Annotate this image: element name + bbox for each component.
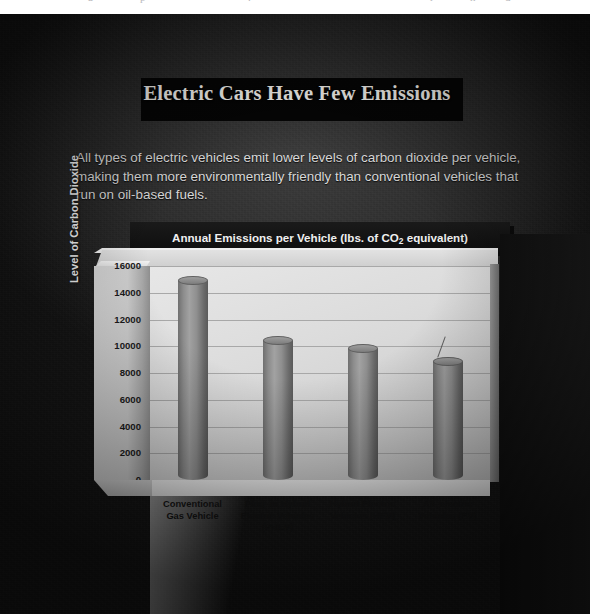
- bar-cylinder-body: [263, 341, 293, 480]
- y-axis-tick-label: 4000: [93, 421, 141, 432]
- chart-title-suffix: equivalent): [404, 231, 468, 244]
- bar-slot: [150, 266, 235, 480]
- x-axis-category-label: ConventionalGas Vehicle: [150, 497, 235, 539]
- x-axis-category-line: Conventional: [150, 499, 235, 511]
- headline-block: Electric Cars Have Few Emissions: [136, 72, 460, 118]
- bar-cylinder[interactable]: [178, 281, 208, 480]
- x-axis-category-line: All–electric: [405, 499, 490, 511]
- x-axis-category-label: All–electricVehicles (EV): [405, 497, 490, 539]
- x-axis-category-line: Vehicles (HEV): [320, 511, 405, 523]
- y-axis-tick-label: 8000: [93, 367, 141, 378]
- poster-page: Electric Cars Have Few Emissions All typ…: [0, 14, 590, 614]
- bar-cylinder[interactable]: [348, 349, 378, 480]
- x-axis-category-label: Plug–in HybridElectric Vehicles(PHEV): [235, 497, 320, 539]
- x-axis-category-line: Electric Vehicles: [235, 511, 320, 523]
- intro-paragraph-block: All types of electric vehicles emit lowe…: [76, 149, 524, 205]
- x-axis-category-line: (PHEV): [235, 522, 320, 534]
- bar-cylinder[interactable]: [433, 362, 463, 480]
- chart-pedestal-left-face: [98, 510, 154, 614]
- y-axis-tick-label: 2000: [93, 447, 141, 458]
- bar-cylinder-body: [348, 349, 378, 480]
- plot-right-edge: [490, 264, 499, 482]
- x-axis-category-line: Plug–in Hybrid: [235, 499, 320, 511]
- bar-cylinder-top: [178, 276, 208, 285]
- y-axis-tick-label: 14000: [93, 287, 141, 298]
- chart-title-subscript: 2: [399, 236, 404, 246]
- plot-area: [150, 266, 490, 480]
- x-axis-category-line: Vehicles (EV): [405, 511, 490, 523]
- bar-slot: [235, 266, 320, 480]
- bar-slot: [320, 266, 405, 480]
- top-cut-off-text-sliver: ap.rnd: [0, 0, 590, 14]
- top-text-fragment: .: [248, 0, 251, 3]
- x-axis-category-line: Gas Vehicle: [150, 511, 235, 523]
- top-text-fragment: n: [470, 0, 476, 3]
- y-axis-tick-label: 16000: [93, 260, 141, 271]
- headline-box: Electric Cars Have Few Emissions: [136, 72, 458, 115]
- y-axis-pillar: 1600014000120001000080006000400020000: [94, 266, 150, 480]
- plot-floor: [150, 480, 490, 496]
- emissions-bar-chart: Annual Emissions per Vehicle (lbs. of CO…: [72, 220, 522, 614]
- top-text-fragment: a: [88, 0, 93, 3]
- chart-title-banner: Annual Emissions per Vehicle (lbs. of CO…: [130, 222, 510, 252]
- y-axis-tick-label: 10000: [93, 340, 141, 351]
- x-axis-category-labels: ConventionalGas VehiclePlug–in HybridEle…: [150, 497, 490, 539]
- top-text-fragment: d: [505, 0, 511, 3]
- bar-cylinder-top: [263, 336, 293, 345]
- top-text-fragment: r: [430, 0, 434, 3]
- y-axis-tick-label: 12000: [93, 314, 141, 325]
- chart-title: Annual Emissions per Vehicle (lbs. of CO…: [172, 231, 468, 244]
- page-title: Electric Cars Have Few Emissions: [143, 82, 450, 105]
- x-axis-category-label: Hybrid ElectricVehicles (HEV): [320, 497, 405, 539]
- bar-cylinder-body: [178, 281, 208, 480]
- right-dark-flank: [500, 234, 590, 614]
- bar-cylinder[interactable]: [263, 341, 293, 480]
- y-axis-title: Level of Carbon Dioxide: [68, 144, 80, 294]
- chart-title-prefix: Annual Emissions per Vehicle (lbs. of CO: [172, 231, 399, 244]
- top-text-fragment: p: [140, 0, 146, 3]
- bar-cylinder-top: [348, 344, 378, 353]
- bar-cylinder-body: [433, 362, 463, 480]
- y-axis-tick-label: 6000: [93, 394, 141, 405]
- x-axis-category-line: Hybrid Electric: [320, 499, 405, 511]
- bar-cylinder-top: [433, 357, 463, 366]
- intro-paragraph: All types of electric vehicles emit lowe…: [76, 149, 524, 205]
- plot-floor-left: [94, 480, 152, 496]
- bar-slot: [405, 266, 490, 480]
